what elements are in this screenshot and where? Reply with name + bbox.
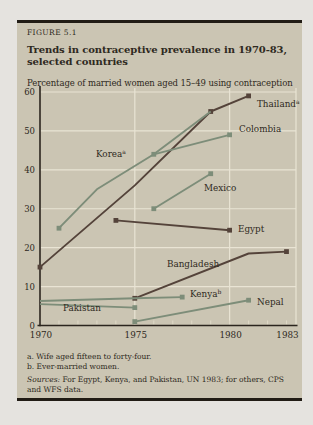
- figure-number-label: FIGURE 5.1: [27, 28, 292, 37]
- sources-text: For Egypt, Kenya, and Pakistan, UN 1983;…: [27, 375, 284, 394]
- figure-title-line1: Trends in contraceptive prevalence in 19…: [27, 44, 292, 56]
- figure-panel: FIGURE 5.1 Trends in contraceptive preva…: [17, 20, 302, 401]
- sources-note: Sources: For Egypt, Kenya, and Pakistan,…: [27, 375, 287, 395]
- footnote-b: b. Ever-married women.: [27, 362, 289, 372]
- figure-title-line2: selected countries: [27, 56, 292, 68]
- sources-label: Sources:: [27, 375, 60, 384]
- figure-title: Trends in contraceptive prevalence in 19…: [27, 44, 292, 68]
- footnote-a: a. Wife aged fifteen to forty-four.: [27, 352, 289, 362]
- figure-subtitle: Percentage of married women aged 15–49 u…: [27, 78, 292, 88]
- footnotes: a. Wife aged fifteen to forty-four. b. E…: [27, 352, 289, 372]
